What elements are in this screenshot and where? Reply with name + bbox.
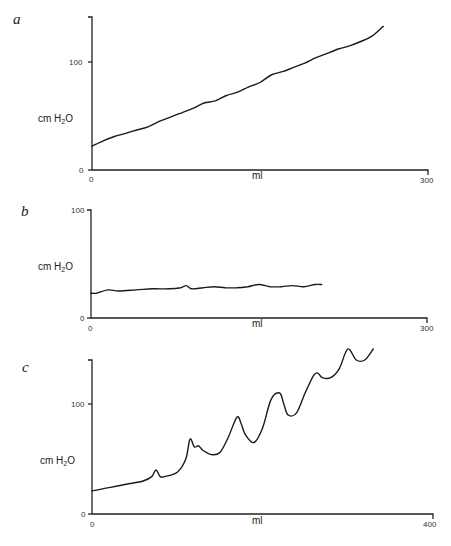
y-tick-label-100: 100 bbox=[71, 206, 85, 215]
y-tick-label-100: 100 bbox=[71, 400, 85, 409]
data-line bbox=[92, 26, 383, 146]
y-tick-label-100: 100 bbox=[69, 58, 83, 67]
x-tick-label-0: 0 bbox=[89, 175, 94, 184]
x-tick-label-max: 300 bbox=[420, 176, 434, 185]
panel-a: a 100 0 0 300 ml cm H2O bbox=[13, 11, 434, 185]
x-axis-label: ml bbox=[252, 318, 263, 329]
axes bbox=[87, 210, 427, 323]
data-line bbox=[92, 349, 373, 491]
x-tick-label-0: 0 bbox=[90, 520, 95, 529]
panel-b: b 100 0 0 300 ml cm H2O bbox=[21, 203, 434, 333]
panel-letter: b bbox=[21, 203, 29, 219]
panel-letter: c bbox=[22, 359, 29, 375]
panel-letter: a bbox=[13, 11, 21, 27]
y-axis-label: cm H2O bbox=[38, 113, 73, 125]
figure-canvas: a 100 0 0 300 ml cm H2O b 100 0 0 300 ml… bbox=[0, 0, 451, 546]
axes bbox=[88, 17, 428, 175]
data-line bbox=[91, 284, 322, 293]
y-tick-label-0: 0 bbox=[80, 314, 85, 323]
y-tick-label-0: 0 bbox=[81, 510, 86, 519]
y-tick-label-0: 0 bbox=[79, 166, 84, 175]
panel-c: c 100 0 0 400 ml cm H2O bbox=[22, 349, 437, 529]
y-axis-label: cm H2O bbox=[38, 261, 73, 273]
x-tick-label-max: 300 bbox=[420, 324, 434, 333]
axes bbox=[88, 360, 433, 519]
x-tick-label-0: 0 bbox=[88, 324, 93, 333]
x-axis-label: ml bbox=[252, 170, 263, 181]
x-axis-label: ml bbox=[252, 515, 263, 526]
y-axis-label: cm H2O bbox=[40, 455, 75, 467]
x-tick-label-max: 400 bbox=[423, 520, 437, 529]
